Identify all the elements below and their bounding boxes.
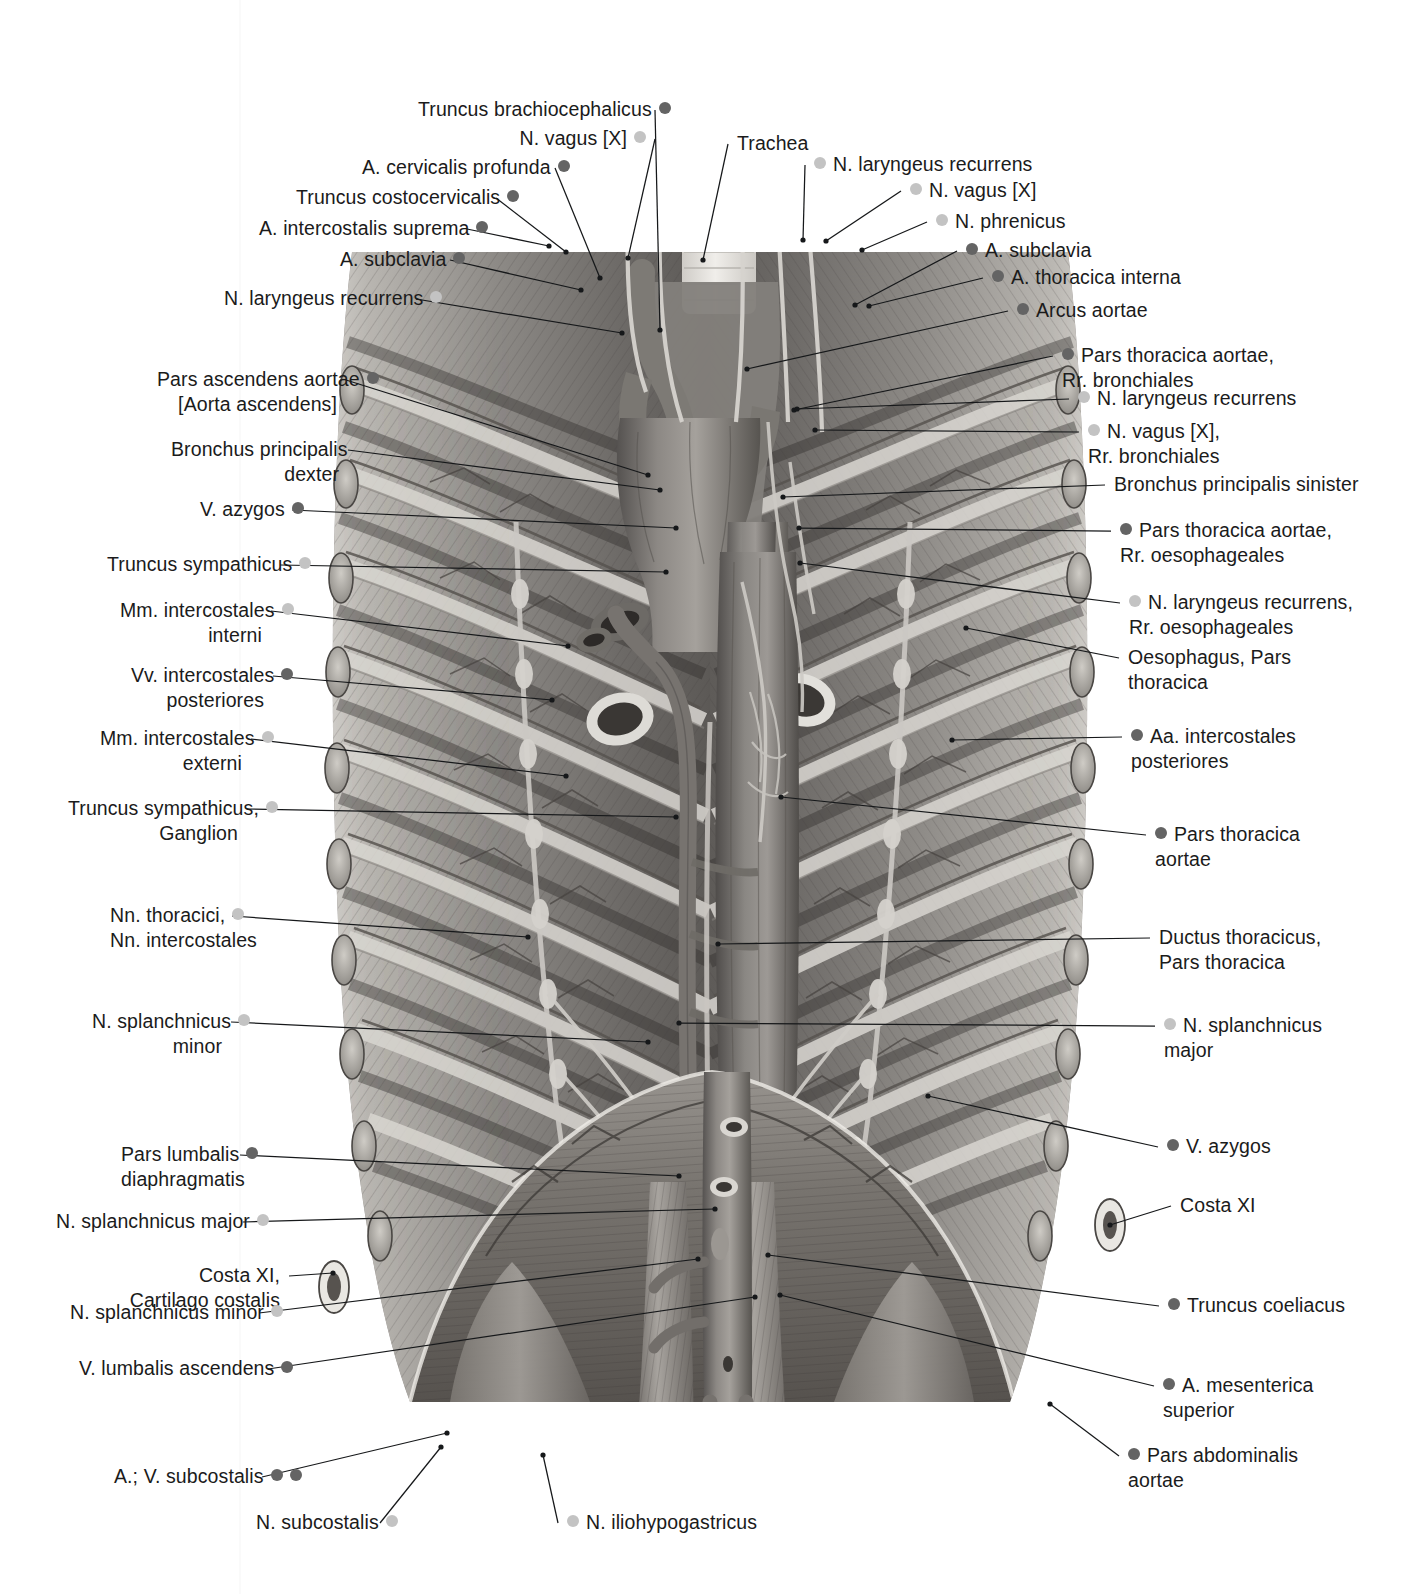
label-line: Pars thoracica aortae,: [1062, 343, 1274, 368]
label-n-phrenicus[interactable]: N. phrenicus: [936, 209, 1066, 234]
label-n-vagus-x-rr-bronchiales[interactable]: N. vagus [X],Rr. bronchiales: [1088, 419, 1220, 469]
label-line: N. splanchnicus major: [56, 1209, 234, 1234]
label-line: A. subclavia: [340, 247, 441, 272]
label-bullet-light: [238, 1014, 250, 1026]
label-bullet-dark: [1062, 348, 1074, 360]
label-bronchus-principalis-sinister[interactable]: Bronchus principalis sinister: [1114, 472, 1359, 497]
label-line: N. iliohypogastricus: [567, 1510, 757, 1535]
label-a-thoracica-interna[interactable]: A. thoracica interna: [992, 265, 1181, 290]
label-vv-intercostales-posteriores[interactable]: Vv. intercostalesposteriores: [131, 663, 264, 713]
label-bullet-dark: [992, 270, 1004, 282]
label-pars-ascendens-aortae[interactable]: Pars ascendens aortae[Aorta ascendens]: [157, 367, 337, 417]
label-bullet-dark: [1131, 729, 1143, 741]
label-bullet-light: [910, 183, 922, 195]
label-trachea[interactable]: Trachea: [737, 131, 809, 156]
label-pars-lumbalis-diaphragmatis[interactable]: Pars lumbalisdiaphragmatis: [121, 1142, 231, 1192]
label-line: Pars thoracica aortae,: [1120, 518, 1332, 543]
label-line: posteriores: [131, 688, 264, 713]
label-bullet-dark: [1163, 1378, 1175, 1390]
label-truncus-brachiocephalicus[interactable]: Truncus brachiocephalicus: [418, 97, 646, 122]
label-a-cervicalis-profunda[interactable]: A. cervicalis profunda: [362, 155, 546, 180]
label-line: N. subcostalis: [256, 1510, 371, 1535]
label-line: Costa XI,: [120, 1263, 280, 1288]
label-n-iliohypogastricus[interactable]: N. iliohypogastricus: [567, 1510, 757, 1535]
label-line: A. thoracica interna: [992, 265, 1181, 290]
label-mm-intercostales-interni[interactable]: Mm. intercostalesinterni: [120, 598, 262, 648]
label-bullet-dark: [271, 1469, 283, 1481]
label-a-subclavia-right[interactable]: A. subclavia: [966, 238, 1091, 263]
label-bullet-light: [257, 1214, 269, 1226]
label-bullet-dark: [367, 372, 379, 384]
label-line: A. subclavia: [966, 238, 1091, 263]
figure-page: Truncus brachiocephalicusN. vagus [X]A. …: [0, 0, 1414, 1594]
label-line: Truncus costocervicalis: [296, 185, 487, 210]
label-v-azygos-right[interactable]: V. azygos: [1167, 1134, 1271, 1159]
label-line: V. azygos: [1167, 1134, 1271, 1159]
label-bullet-light: [567, 1515, 579, 1527]
label-n-laryngeus-recurrens-right-1[interactable]: N. laryngeus recurrens: [814, 152, 1032, 177]
label-line: N. laryngeus recurrens,: [1129, 590, 1353, 615]
label-line: Pars lumbalis: [121, 1142, 231, 1167]
label-ductus-thoracicus-pars-thoracica[interactable]: Ductus thoracicus,Pars thoracica: [1159, 925, 1321, 975]
label-line: Nn. intercostales: [110, 928, 223, 953]
label-bullet-light: [232, 908, 244, 920]
label-n-laryngeus-recurrens-left-1[interactable]: N. laryngeus recurrens: [224, 286, 407, 311]
label-pars-abdominalis-aortae[interactable]: Pars abdominalisaortae: [1128, 1443, 1298, 1493]
label-pars-thoracica-aortae[interactable]: Pars thoracicaaortae: [1155, 822, 1300, 872]
label-n-splanchnicus-major-right[interactable]: N. splanchnicusmajor: [1164, 1013, 1322, 1063]
label-line: Bronchus principalis: [171, 437, 339, 462]
label-truncus-costocervicalis[interactable]: Truncus costocervicalis: [296, 185, 487, 210]
label-n-subcostalis[interactable]: N. subcostalis: [256, 1510, 371, 1535]
label-line: minor: [92, 1034, 222, 1059]
label-bullet-dark: [246, 1147, 258, 1159]
label-line: A. cervicalis profunda: [362, 155, 546, 180]
label-arcus-aortae[interactable]: Arcus aortae: [1017, 298, 1148, 323]
label-aa-intercostales-posteriores[interactable]: Aa. intercostalesposteriores: [1131, 724, 1296, 774]
label-truncus-sympathicus[interactable]: Truncus sympathicus: [107, 552, 271, 577]
label-bullet-dark: [558, 160, 570, 172]
label-v-azygos-left[interactable]: V. azygos: [200, 497, 283, 522]
label-line: posteriores: [1131, 749, 1296, 774]
label-a-subclavia-left[interactable]: A. subclavia: [340, 247, 441, 272]
label-truncus-sympathicus-ganglion[interactable]: Truncus sympathicus,Ganglion: [68, 796, 238, 846]
label-line: dexter: [171, 462, 339, 487]
label-a-intercostalis-suprema[interactable]: A. intercostalis suprema: [259, 216, 458, 241]
label-line: Arcus aortae: [1017, 298, 1148, 323]
label-truncus-coeliacus[interactable]: Truncus coeliacus: [1168, 1293, 1345, 1318]
label-bullet-dark: [659, 102, 671, 114]
label-line: Pars thoracica: [1159, 950, 1321, 975]
label-n-laryngeus-recurrens-right-2[interactable]: N. laryngeus recurrens: [1078, 386, 1296, 411]
label-bullet-light: [1164, 1018, 1176, 1030]
label-line: A.; V. subcostalis: [114, 1464, 253, 1489]
label-a-mesenterica-superior[interactable]: A. mesentericasuperior: [1163, 1373, 1313, 1423]
label-pars-thoracica-aortae-rr-oesophageales[interactable]: Pars thoracica aortae,Rr. oesophageales: [1120, 518, 1332, 568]
label-line: externi: [100, 751, 242, 776]
label-n-splanchnicus-minor-left[interactable]: N. splanchnicusminor: [92, 1009, 222, 1059]
label-bullet-dark: [507, 190, 519, 202]
label-bullet-dark: [1128, 1448, 1140, 1460]
label-bullet-light: [1129, 595, 1141, 607]
label-oesophagus-pars-thoracica[interactable]: Oesophagus, Parsthoracica: [1128, 645, 1291, 695]
label-line: N. laryngeus recurrens: [814, 152, 1032, 177]
label-nn-thoracici-intercostales[interactable]: Nn. thoracici,Nn. intercostales: [110, 903, 223, 953]
label-n-splanchnicus-major-left[interactable]: N. splanchnicus major: [56, 1209, 234, 1234]
label-costa-xi-right[interactable]: Costa XI: [1180, 1193, 1256, 1218]
label-n-vagus-x-left[interactable]: N. vagus [X]: [475, 126, 646, 151]
label-n-laryngeus-recurrens-rr-oesophageales[interactable]: N. laryngeus recurrens,Rr. oesophageales: [1129, 590, 1353, 640]
label-bullet-dark: [1155, 827, 1167, 839]
label-v-lumbalis-ascendens[interactable]: V. lumbalis ascendens: [79, 1356, 259, 1381]
label-n-vagus-x-right[interactable]: N. vagus [X]: [910, 178, 1036, 203]
label-bullet-light: [266, 801, 278, 813]
label-bullet-dark: [292, 502, 304, 514]
label-line: A. mesenterica: [1163, 1373, 1313, 1398]
label-line: N. vagus [X]: [475, 126, 646, 151]
label-line: Truncus sympathicus: [107, 552, 271, 577]
label-line: Mm. intercostales: [120, 598, 262, 623]
label-bullet-dark: [1168, 1298, 1180, 1310]
anatomical-illustration: [290, 222, 1130, 1522]
label-mm-intercostales-externi[interactable]: Mm. intercostalesexterni: [100, 726, 242, 776]
label-line: Nn. thoracici,: [110, 903, 223, 928]
label-n-splanchnicus-minor-left-2[interactable]: N. splanchnicus minor: [70, 1300, 250, 1325]
label-bronchus-principalis-dexter[interactable]: Bronchus principalisdexter: [171, 437, 339, 487]
label-a-v-subcostalis[interactable]: A.; V. subcostalis: [114, 1464, 253, 1489]
